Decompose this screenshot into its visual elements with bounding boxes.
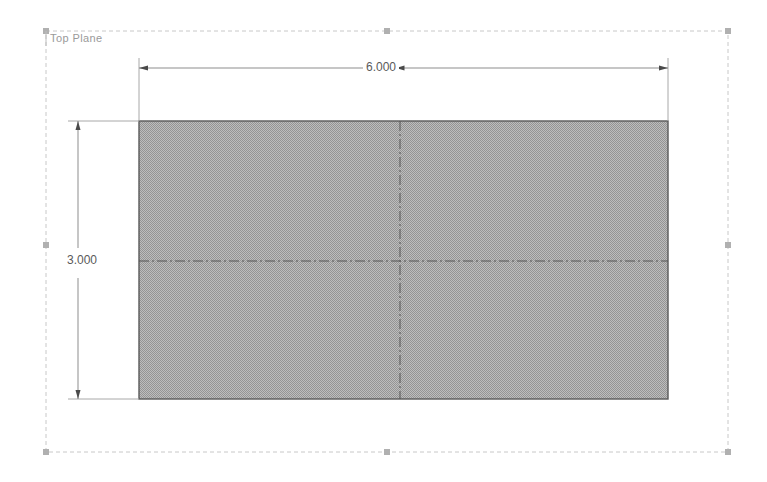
handle-middle-left[interactable] (43, 242, 49, 248)
handle-bottom-right[interactable] (725, 449, 731, 455)
dimension-horizontal[interactable] (139, 58, 668, 121)
dimension-label-width[interactable]: 6.000 (363, 60, 399, 74)
sketch-canvas[interactable]: Top Plane 6.000 3.000 (0, 0, 767, 482)
handle-middle-right[interactable] (725, 242, 731, 248)
dimension-arrow-right-icon (659, 66, 668, 71)
dimension-label-height[interactable]: 3.000 (64, 253, 100, 267)
handle-bottom-center[interactable] (384, 449, 390, 455)
rectangle-face[interactable] (139, 121, 668, 399)
dimension-arrow-left-icon (139, 66, 148, 71)
sketch-rectangle[interactable] (139, 121, 668, 399)
handle-top-right[interactable] (725, 28, 731, 34)
plane-label: Top Plane (50, 32, 103, 44)
dimension-arrow-bottom-icon (76, 390, 81, 399)
handle-bottom-left[interactable] (43, 449, 49, 455)
handle-top-center[interactable] (384, 28, 390, 34)
dimension-arrow-top-icon (76, 121, 81, 130)
